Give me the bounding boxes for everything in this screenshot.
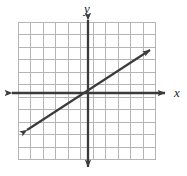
graph-canvas [0,0,187,176]
y-axis-label: y [84,2,90,15]
x-axis-label: x [174,86,180,99]
coordinate-plane-figure: y x [0,0,187,176]
